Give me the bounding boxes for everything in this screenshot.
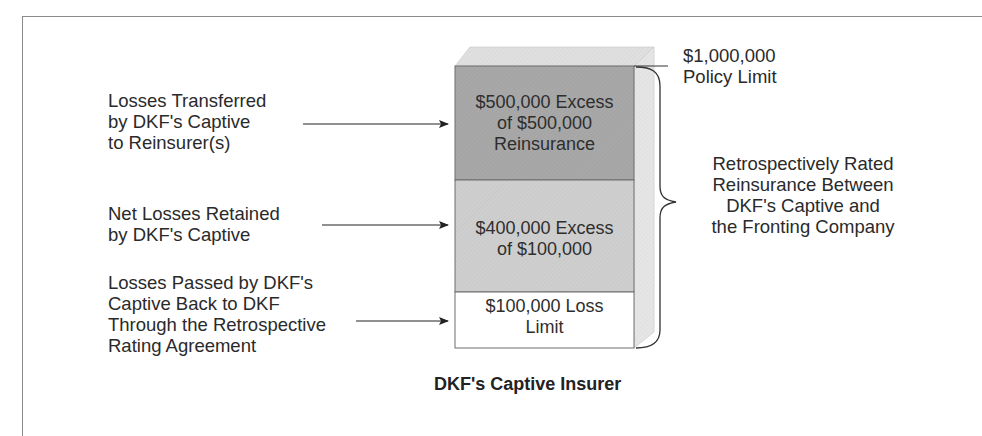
- label-line: Rating Agreement: [108, 335, 326, 356]
- label-line: by DKF's Captive: [108, 111, 266, 132]
- policy-limit-amount: $1,000,000: [683, 45, 777, 66]
- layer-text-line: $400,000 Excess: [455, 218, 634, 239]
- label-line: by DKF's Captive: [108, 224, 280, 245]
- label-line: Net Losses Retained: [108, 203, 280, 224]
- brace-label: Retrospectively Rated Reinsurance Betwee…: [678, 153, 928, 237]
- label-losses-transferred: Losses Transferred by DKF's Captive to R…: [108, 90, 266, 153]
- diagram-title: DKF's Captive Insurer: [434, 374, 621, 395]
- layer-reinsurance-text: $500,000 Excess of $500,000 Reinsurance: [455, 92, 634, 155]
- label-line: Losses Passed by DKF's: [108, 272, 326, 293]
- policy-limit-caption: Policy Limit: [683, 66, 777, 87]
- label-net-losses-retained: Net Losses Retained by DKF's Captive: [108, 203, 280, 245]
- brace-label-line: DKF's Captive and: [678, 195, 928, 216]
- brace-label-line: Retrospectively Rated: [678, 153, 928, 174]
- brace-label-line: Reinsurance Between: [678, 174, 928, 195]
- label-line: to Reinsurer(s): [108, 132, 266, 153]
- layer-text-line: Reinsurance: [455, 134, 634, 155]
- label-line: Through the Retrospective: [108, 314, 326, 335]
- brace-label-line: the Fronting Company: [678, 216, 928, 237]
- layer-retained-text: $400,000 Excess of $100,000: [455, 218, 634, 260]
- label-losses-passed-back: Losses Passed by DKF's Captive Back to D…: [108, 272, 326, 356]
- layer-text-line: Limit: [455, 317, 634, 338]
- label-line: Losses Transferred: [108, 90, 266, 111]
- layer-text-line: of $500,000: [455, 113, 634, 134]
- label-line: Captive Back to DKF: [108, 293, 326, 314]
- policy-limit-label: $1,000,000 Policy Limit: [683, 45, 777, 87]
- layer-text-line: of $100,000: [455, 239, 634, 260]
- layer-loss-limit-text: $100,000 Loss Limit: [455, 296, 634, 338]
- layer-text-line: $100,000 Loss: [455, 296, 634, 317]
- layer-text-line: $500,000 Excess: [455, 92, 634, 113]
